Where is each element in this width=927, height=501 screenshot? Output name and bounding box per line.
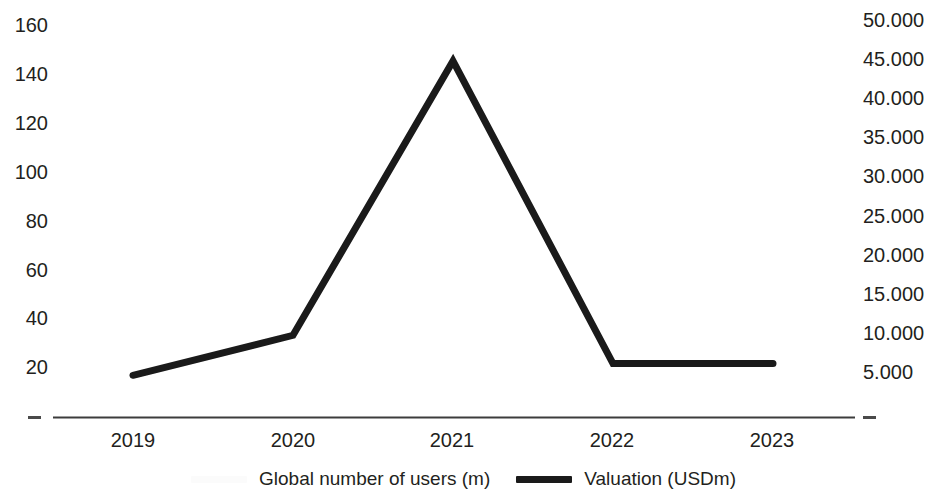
- legend-line-icon-users: [191, 476, 247, 483]
- x-tick-2021: 2021: [407, 430, 497, 450]
- x-tick-2023: 2023: [727, 430, 817, 450]
- x-tick-2020: 2020: [248, 430, 338, 450]
- legend-line-icon-valuation: [516, 476, 572, 483]
- legend-label-valuation: Valuation (USDm): [584, 468, 736, 490]
- legend-label-users: Global number of users (m): [259, 468, 490, 490]
- legend-entry-users[interactable]: Global number of users (m): [191, 468, 490, 490]
- line-chart: 160 140 120 100 80 60 40 20 50.000 45.00…: [0, 0, 927, 501]
- plot-area: [0, 0, 927, 501]
- x-tick-2022: 2022: [567, 430, 657, 450]
- x-tick-2019: 2019: [88, 430, 178, 450]
- series-line-valuation: [133, 61, 773, 375]
- legend-entry-valuation[interactable]: Valuation (USDm): [516, 468, 736, 490]
- chart-legend: Global number of users (m) Valuation (US…: [0, 468, 927, 490]
